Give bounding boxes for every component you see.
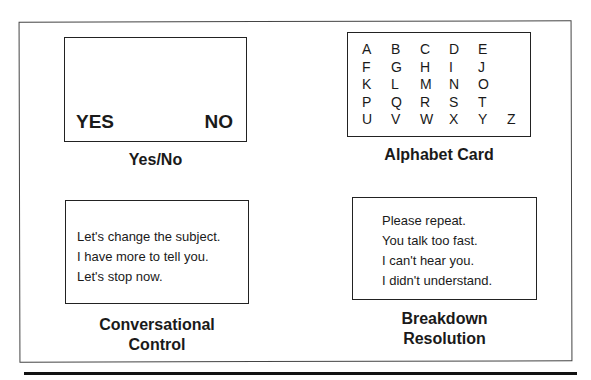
- alphabet-letter: N: [449, 76, 478, 94]
- yes-no-label: Yes/No: [64, 150, 247, 170]
- label-line: Control: [65, 335, 249, 355]
- conversational-lines: Let's change the subject. I have more to…: [77, 227, 220, 287]
- alphabet-letter: G: [391, 59, 420, 77]
- label-line: Conversational: [65, 315, 249, 335]
- alphabet-card-label: Alphabet Card: [347, 145, 531, 165]
- conversational-control-label: Conversational Control: [65, 315, 249, 355]
- alphabet-letter: A: [362, 41, 391, 59]
- phrase: I have more to tell you.: [77, 247, 220, 267]
- no-text: NO: [205, 111, 234, 133]
- alphabet-letter: M: [420, 76, 449, 94]
- alphabet-letter: [507, 59, 536, 77]
- alphabet-letter: J: [478, 59, 507, 77]
- phrase: I can't hear you.: [382, 251, 492, 271]
- phrase: Let's stop now.: [77, 267, 220, 287]
- alphabet-letter: V: [391, 111, 420, 129]
- alphabet-letter: K: [362, 76, 391, 94]
- alphabet-letter: R: [420, 94, 449, 112]
- alphabet-letter: X: [449, 111, 478, 129]
- phrase: Let's change the subject.: [77, 227, 220, 247]
- alphabet-letter: O: [478, 76, 507, 94]
- phrase: I didn't understand.: [382, 271, 492, 291]
- alphabet-letter: D: [449, 41, 478, 59]
- alphabet-card: ABCDEFGHIJKLMNOPQRSTUVWXYZ: [347, 32, 531, 137]
- breakdown-resolution-card: Please repeat. You talk too fast. I can'…: [352, 197, 537, 300]
- alphabet-letter: C: [420, 41, 449, 59]
- alphabet-letter: [507, 76, 536, 94]
- yes-no-card: YES NO: [64, 37, 247, 142]
- label-line: Breakdown: [352, 309, 537, 329]
- alphabet-letter: L: [391, 76, 420, 94]
- bottom-rule: [24, 372, 577, 375]
- alphabet-letter: S: [449, 94, 478, 112]
- alphabet-letter: H: [420, 59, 449, 77]
- alphabet-letter: P: [362, 94, 391, 112]
- phrase: Please repeat.: [382, 211, 492, 231]
- label-line: Resolution: [352, 329, 537, 349]
- breakdown-resolution-label: Breakdown Resolution: [352, 309, 537, 349]
- alphabet-letter: F: [362, 59, 391, 77]
- alphabet-letter: Z: [507, 111, 536, 129]
- alphabet-letter: I: [449, 59, 478, 77]
- alphabet-letter: U: [362, 111, 391, 129]
- alphabet-letter: Q: [391, 94, 420, 112]
- alphabet-letter: [507, 94, 536, 112]
- alphabet-letter: W: [420, 111, 449, 129]
- conversational-control-card: Let's change the subject. I have more to…: [65, 200, 249, 304]
- alphabet-letter: [507, 41, 536, 59]
- alphabet-grid: ABCDEFGHIJKLMNOPQRSTUVWXYZ: [362, 41, 536, 129]
- alphabet-letter: E: [478, 41, 507, 59]
- alphabet-letter: Y: [478, 111, 507, 129]
- alphabet-letter: B: [391, 41, 420, 59]
- breakdown-lines: Please repeat. You talk too fast. I can'…: [382, 211, 492, 291]
- phrase: You talk too fast.: [382, 231, 492, 251]
- yes-text: YES: [76, 111, 114, 133]
- alphabet-letter: T: [478, 94, 507, 112]
